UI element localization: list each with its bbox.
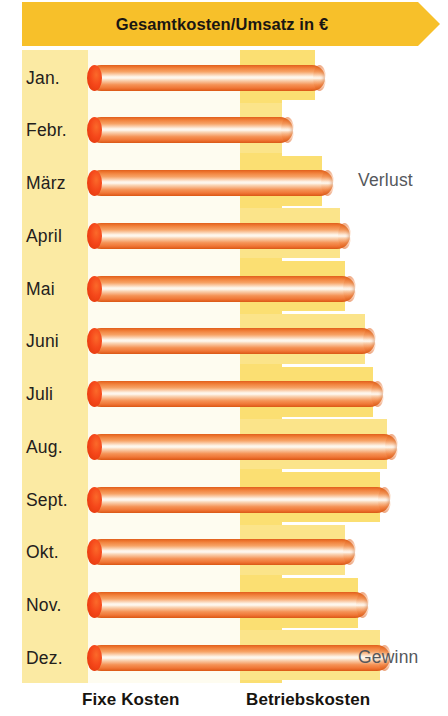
annotation-loss: Verlust — [358, 170, 413, 191]
bar-row: Juli — [0, 368, 448, 421]
legend-item-fixed-costs: Fixe Kosten — [82, 690, 179, 710]
month-label: Febr. — [26, 120, 67, 141]
bar-row: Mai — [0, 262, 448, 315]
bar — [88, 539, 355, 565]
bar — [88, 170, 333, 196]
bar-row: Aug. — [0, 420, 448, 473]
bar — [88, 65, 325, 91]
bar-row: Sept. — [0, 473, 448, 526]
bar — [88, 487, 390, 513]
bar-row: Jan. — [0, 51, 448, 104]
annotation-profit: Gewinn — [358, 647, 419, 668]
bar-row: Juni — [0, 315, 448, 368]
bar-row: April — [0, 209, 448, 262]
bar — [88, 592, 368, 618]
month-label: Juni — [26, 331, 59, 352]
bar — [88, 223, 350, 249]
chart-plot-area: Jan.Febr.MärzAprilMaiJuniJuliAug.Sept.Ok… — [0, 50, 448, 684]
bar — [88, 276, 355, 302]
bar — [88, 381, 383, 407]
legend-item-operating-costs: Betriebskosten — [246, 690, 370, 710]
bar-row: Nov. — [0, 579, 448, 632]
month-label: Dez. — [26, 647, 63, 668]
bar — [88, 117, 293, 143]
page-title: Gesamtkosten/Umsatz in € — [22, 2, 422, 46]
month-label: Juli — [26, 384, 53, 405]
bar-row: Okt. — [0, 526, 448, 579]
month-label: Jan. — [26, 67, 60, 88]
month-label: Nov. — [26, 595, 61, 616]
month-label: Aug. — [26, 436, 63, 457]
bar — [88, 434, 397, 460]
month-label: April — [26, 225, 62, 246]
month-label: Sept. — [26, 489, 68, 510]
month-label: Mai — [26, 278, 55, 299]
month-label: März — [26, 173, 66, 194]
bar — [88, 645, 390, 671]
month-label: Okt. — [26, 542, 59, 563]
bar — [88, 328, 375, 354]
bar-row: Febr. — [0, 104, 448, 157]
legend: Fixe Kosten Betriebskosten — [0, 690, 448, 716]
